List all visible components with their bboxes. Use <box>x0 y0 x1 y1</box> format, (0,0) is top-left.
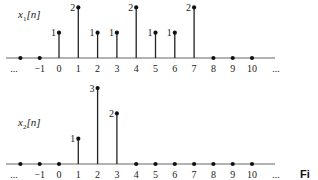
tick-label: 2 <box>95 169 100 180</box>
tick-label: 3 <box>114 63 119 74</box>
tick-label: 6 <box>172 63 177 74</box>
value-label: 2 <box>109 108 114 119</box>
value-label: 1 <box>167 27 172 38</box>
tick-label: ... <box>272 63 280 74</box>
tick-label: 5 <box>153 169 158 180</box>
value-label: 1 <box>109 27 114 38</box>
value-label: 1 <box>90 27 95 38</box>
stem-dot <box>96 31 100 35</box>
stem-dot <box>173 162 177 166</box>
tick-label: ... <box>272 169 280 180</box>
stem-dot <box>57 31 61 35</box>
value-label: 3 <box>90 83 95 94</box>
stem-plot-1: x1[n]12112112...−1012345678910... <box>6 2 280 74</box>
signal-label: x2[n] <box>17 116 40 131</box>
tick-label: −1 <box>34 63 45 74</box>
stem-dot <box>115 111 119 115</box>
tick-label: 7 <box>192 63 197 74</box>
signal-label: x1[n] <box>17 8 40 23</box>
tick-label: 4 <box>134 63 139 74</box>
stem-dot <box>18 56 22 60</box>
stem-dot <box>18 162 22 166</box>
stem-dot <box>115 31 119 35</box>
tick-label: 2 <box>95 63 100 74</box>
tick-label: 10 <box>247 63 257 74</box>
stem-dot <box>38 56 42 60</box>
tick-label: 3 <box>114 169 119 180</box>
tick-label: 6 <box>172 169 177 180</box>
stem-dot <box>211 56 215 60</box>
stem-dot <box>250 56 254 60</box>
stem-dot <box>96 86 100 90</box>
tick-label: 1 <box>76 169 81 180</box>
tick-label: 0 <box>57 63 62 74</box>
stem-dot <box>134 5 138 9</box>
stem-dot <box>192 162 196 166</box>
tick-label: 1 <box>76 63 81 74</box>
tick-label: 7 <box>192 169 197 180</box>
tick-label: 8 <box>211 169 216 180</box>
tick-label: ... <box>10 63 18 74</box>
value-label: 1 <box>70 133 75 144</box>
stem-dot <box>38 162 42 166</box>
stem-plot-2: x2[n]132...−1012345678910... <box>6 83 280 180</box>
stem-dot <box>231 162 235 166</box>
tick-label: 9 <box>230 169 235 180</box>
stem-dot <box>76 137 80 141</box>
tick-label: ... <box>10 169 18 180</box>
value-label: 1 <box>51 27 56 38</box>
stem-dot <box>192 5 196 9</box>
tick-label: 4 <box>134 169 139 180</box>
tick-label: 9 <box>230 63 235 74</box>
value-label: 2 <box>70 2 75 13</box>
tick-label: 0 <box>57 169 62 180</box>
stem-dot <box>211 162 215 166</box>
tick-label: 10 <box>247 169 257 180</box>
stem-dot <box>250 162 254 166</box>
stem-dot <box>173 31 177 35</box>
value-label: 1 <box>148 27 153 38</box>
stem-dot <box>57 162 61 166</box>
stem-plots: x1[n]12112112...−1012345678910...x2[n]13… <box>0 0 318 180</box>
stem-dot <box>153 162 157 166</box>
value-label: 2 <box>186 2 191 13</box>
tick-label: 8 <box>211 63 216 74</box>
stem-dot <box>134 162 138 166</box>
tick-label: 5 <box>153 63 158 74</box>
stem-dot <box>231 56 235 60</box>
value-label: 2 <box>128 2 133 13</box>
tick-label: −1 <box>34 169 45 180</box>
stem-dot <box>153 31 157 35</box>
stem-dot <box>76 5 80 9</box>
figure-caption-fragment: Fi <box>300 168 310 180</box>
